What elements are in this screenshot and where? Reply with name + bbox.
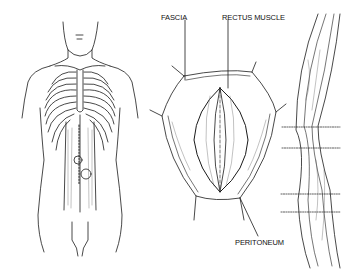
incision-figure	[150, 20, 286, 236]
anatomy-diagram: FASCIA RECTUS MUSCLE PERITONEUM	[0, 0, 358, 278]
label-fascia: FASCIA	[161, 13, 187, 22]
cross-section-figure	[281, 14, 340, 268]
diagram-artwork	[0, 0, 358, 278]
label-peritoneum: PERITONEUM	[235, 238, 284, 247]
label-rectus-muscle: RECTUS MUSCLE	[222, 13, 285, 22]
torso-figure	[22, 22, 138, 256]
